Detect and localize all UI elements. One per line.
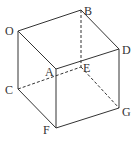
label-D: D [122,43,131,57]
edge-OA [18,31,56,69]
label-F: F [43,123,50,137]
label-A: A [45,65,54,79]
label-C: C [5,83,13,97]
label-B: B [84,4,92,18]
vertex-labels: O B D A E C F G [5,4,131,137]
edge-OB [18,10,81,31]
edge-CF [18,89,56,128]
label-E: E [83,61,90,75]
label-O: O [5,24,14,38]
label-G: G [122,105,131,119]
cube-diagram: O B D A E C F G [0,0,136,141]
hidden-edges [18,10,119,108]
edge-FG [56,108,119,128]
solid-edges [18,10,119,128]
